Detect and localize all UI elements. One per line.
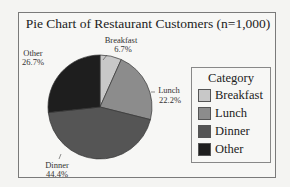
legend: Category Breakfast Lunch Dinner Other	[191, 67, 271, 163]
svg-text:22.2%: 22.2%	[159, 95, 181, 105]
legend-title: Category	[192, 71, 270, 86]
legend-item-dinner: Dinner	[198, 122, 270, 140]
pie-slice-other	[48, 55, 100, 113]
label-lunch-pct: 22.2%	[159, 95, 181, 105]
legend-label-lunch: Lunch	[215, 106, 247, 121]
legend-item-lunch: Lunch	[198, 104, 270, 122]
legend-item-breakfast: Breakfast	[198, 86, 270, 104]
label-lunch-name: Lunch	[158, 85, 180, 95]
label-dinner-pct: 44.4%	[46, 169, 68, 179]
legend-swatch-dinner	[198, 125, 211, 138]
legend-swatch-other	[198, 143, 211, 156]
label-breakfast-pct: 6.7%	[114, 44, 132, 54]
pie-slices	[48, 55, 152, 159]
legend-swatch-lunch	[198, 107, 211, 120]
legend-item-other: Other	[198, 140, 270, 158]
svg-text:6.7%: 6.7%	[114, 44, 132, 54]
chart-frame: Pie Chart of Restaurant Customers (n=1,0…	[18, 12, 276, 178]
legend-label-other: Other	[215, 142, 243, 157]
svg-text:44.4%: 44.4%	[46, 169, 68, 179]
label-other-pct: 26.7%	[22, 57, 44, 67]
svg-text:Lunch: Lunch	[158, 85, 180, 95]
legend-label-breakfast: Breakfast	[215, 88, 263, 103]
legend-swatch-breakfast	[198, 89, 211, 102]
legend-label-dinner: Dinner	[215, 124, 250, 139]
svg-text:26.7%: 26.7%	[22, 57, 44, 67]
